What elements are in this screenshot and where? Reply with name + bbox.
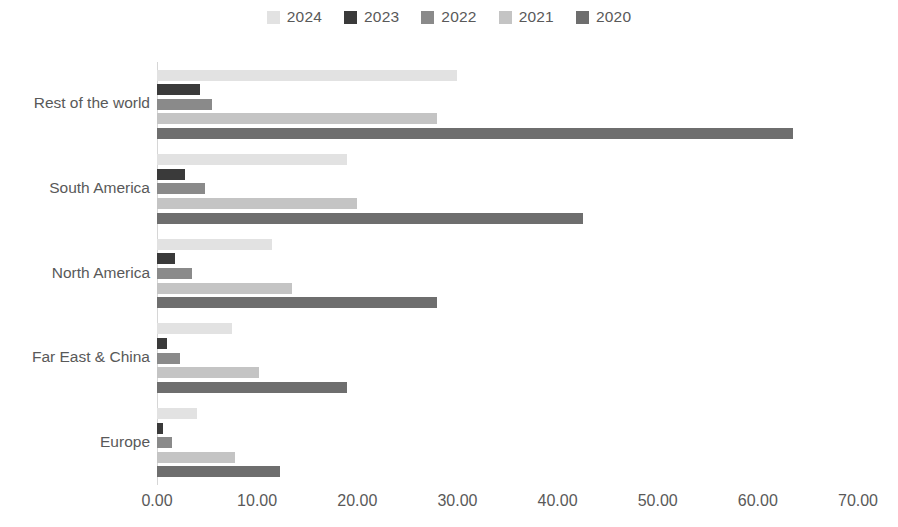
bar-2023-south-america[interactable] [157, 169, 185, 180]
legend-item[interactable]: 2020 [576, 8, 631, 26]
bar-row [157, 408, 858, 419]
bar-row [157, 323, 858, 334]
y-axis-category-labels: Rest of the worldSouth AmericaNorth Amer… [0, 62, 150, 485]
y-axis-label-far-east-china: Far East & China [0, 348, 150, 366]
bar-group [157, 231, 858, 316]
y-axis-label-europe: Europe [0, 433, 150, 451]
bar-2022-south-america[interactable] [157, 183, 205, 194]
bar-row [157, 70, 858, 81]
bar-row [157, 466, 858, 477]
y-axis-label-south-america: South America [0, 179, 150, 197]
bar-row [157, 367, 858, 378]
bar-row [157, 128, 858, 139]
bar-row [157, 297, 858, 308]
bar-2020-far-east-china[interactable] [157, 382, 347, 393]
y-axis-label-north-america: North America [0, 264, 150, 282]
bar-row [157, 113, 858, 124]
bar-2021-north-america[interactable] [157, 283, 292, 294]
legend-swatch-icon [499, 11, 512, 24]
bar-row [157, 423, 858, 434]
legend-item-label: 2020 [596, 8, 631, 26]
chart-legend: 20242023202220212020 [0, 8, 898, 26]
legend-swatch-icon [576, 11, 589, 24]
bar-2024-far-east-china[interactable] [157, 323, 232, 334]
bar-2022-north-america[interactable] [157, 268, 192, 279]
legend-swatch-icon [421, 11, 434, 24]
bar-chart: 20242023202220212020 Rest of the worldSo… [0, 0, 898, 527]
bar-2023-far-east-china[interactable] [157, 338, 167, 349]
x-axis-tick: 50.00 [638, 492, 678, 510]
legend-item-label: 2024 [287, 8, 322, 26]
bar-2022-europe[interactable] [157, 437, 172, 448]
x-axis-tick-labels: 0.0010.0020.0030.0040.0050.0060.0070.00 [157, 492, 858, 518]
bar-row [157, 213, 858, 224]
legend-item-label: 2022 [441, 8, 476, 26]
x-axis-tick: 60.00 [738, 492, 778, 510]
bar-2021-south-america[interactable] [157, 198, 357, 209]
bar-row [157, 382, 858, 393]
bar-group [157, 62, 858, 147]
bar-2023-rest-of-the-world[interactable] [157, 84, 200, 95]
bar-row [157, 84, 858, 95]
legend-swatch-icon [267, 11, 280, 24]
bar-2021-far-east-china[interactable] [157, 367, 259, 378]
bar-row [157, 283, 858, 294]
x-axis-tick: 30.00 [437, 492, 477, 510]
bar-row [157, 239, 858, 250]
bar-row [157, 338, 858, 349]
bar-2024-rest-of-the-world[interactable] [157, 70, 457, 81]
bar-2024-south-america[interactable] [157, 154, 347, 165]
bar-2020-rest-of-the-world[interactable] [157, 128, 793, 139]
legend-item[interactable]: 2021 [499, 8, 554, 26]
legend-item[interactable]: 2022 [421, 8, 476, 26]
bar-2023-europe[interactable] [157, 423, 163, 434]
bar-group [157, 400, 858, 485]
bar-2020-south-america[interactable] [157, 213, 583, 224]
bar-row [157, 353, 858, 364]
bar-2024-europe[interactable] [157, 408, 197, 419]
bar-2022-far-east-china[interactable] [157, 353, 180, 364]
bar-2020-north-america[interactable] [157, 297, 437, 308]
x-axis-tick: 0.00 [141, 492, 172, 510]
bar-row [157, 268, 858, 279]
bar-2022-rest-of-the-world[interactable] [157, 99, 212, 110]
plot-area [157, 62, 858, 485]
legend-item-label: 2023 [364, 8, 399, 26]
bar-2020-europe[interactable] [157, 466, 280, 477]
bar-2021-rest-of-the-world[interactable] [157, 113, 437, 124]
bar-row [157, 99, 858, 110]
legend-swatch-icon [344, 11, 357, 24]
bar-row [157, 253, 858, 264]
bar-2023-north-america[interactable] [157, 253, 175, 264]
bar-2024-north-america[interactable] [157, 239, 272, 250]
bar-2021-europe[interactable] [157, 452, 235, 463]
bar-group [157, 147, 858, 232]
bar-row [157, 183, 858, 194]
bar-row [157, 154, 858, 165]
y-axis-label-rest-of-the-world: Rest of the world [0, 94, 150, 112]
x-axis-tick: 70.00 [838, 492, 878, 510]
legend-item[interactable]: 2023 [344, 8, 399, 26]
bar-row [157, 198, 858, 209]
x-axis-tick: 10.00 [237, 492, 277, 510]
legend-item[interactable]: 2024 [267, 8, 322, 26]
bar-group [157, 316, 858, 401]
bar-row [157, 437, 858, 448]
legend-item-label: 2021 [519, 8, 554, 26]
x-axis-tick: 20.00 [337, 492, 377, 510]
bar-row [157, 169, 858, 180]
x-axis-tick: 40.00 [538, 492, 578, 510]
bar-row [157, 452, 858, 463]
